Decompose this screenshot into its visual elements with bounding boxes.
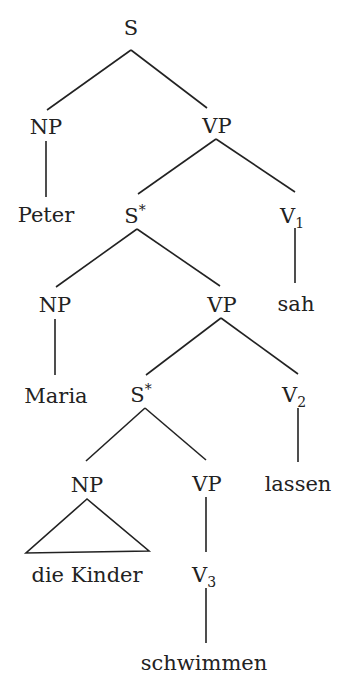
tree-labels: SNPVPPeterS*V1NPVPsahMariaS*V2NPVPlassen… xyxy=(18,16,332,675)
node-vp2: VP xyxy=(206,293,236,317)
edge-sstar1-np2 xyxy=(56,229,137,287)
node-s: S xyxy=(124,16,138,40)
node-v2: V2 xyxy=(281,383,306,410)
node-diekinder: die Kinder xyxy=(31,563,143,587)
edge-vp2-sstar2 xyxy=(146,318,221,375)
node-sstar1: S* xyxy=(124,202,145,228)
node-v1: V1 xyxy=(279,204,304,231)
np-triangle xyxy=(26,499,149,553)
edge-vp1-v1 xyxy=(216,139,295,192)
syntax-tree: SNPVPPeterS*V1NPVPsahMariaS*V2NPVPlassen… xyxy=(0,0,344,689)
node-sah: sah xyxy=(278,292,315,316)
node-peter: Peter xyxy=(18,203,75,227)
edge-s-vp1 xyxy=(131,50,207,108)
node-np2: NP xyxy=(39,293,72,317)
edge-sstar2-np3 xyxy=(86,408,145,461)
edge-vp1-sstar1 xyxy=(138,139,216,194)
node-np1: NP xyxy=(30,115,63,139)
tree-edges xyxy=(46,50,298,643)
edge-s-np1 xyxy=(47,50,131,110)
node-maria: Maria xyxy=(24,384,87,408)
node-lassen: lassen xyxy=(265,472,332,496)
node-vp3: VP xyxy=(191,472,221,496)
edge-sstar2-vp3 xyxy=(145,408,206,460)
edge-vp2-v2 xyxy=(221,318,298,374)
node-np3: NP xyxy=(71,473,104,497)
node-sstar2: S* xyxy=(130,381,151,407)
node-vp1: VP xyxy=(201,114,231,138)
node-schwimmen: schwimmen xyxy=(141,651,268,675)
edge-sstar1-vp2 xyxy=(137,229,220,286)
node-v3: V3 xyxy=(191,563,216,590)
